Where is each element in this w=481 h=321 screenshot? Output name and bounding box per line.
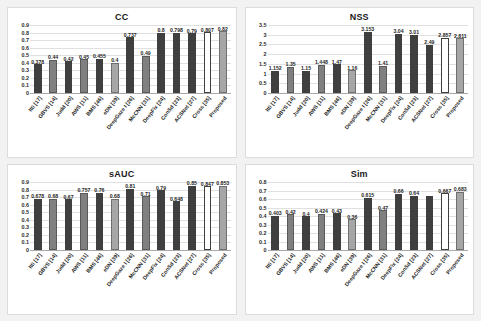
bar[interactable]: 0.67 bbox=[65, 199, 73, 250]
x-tick-slot: Proposed bbox=[453, 250, 468, 314]
plot-area: 00.511.522.533.51.1521.351.151.4481.471.… bbox=[246, 8, 474, 157]
bar[interactable]: 0.68 bbox=[49, 199, 57, 250]
bar[interactable]: 0.76 bbox=[96, 193, 104, 250]
x-tick-slot: Judd [20] bbox=[61, 250, 76, 314]
bar-slot: 0.8 bbox=[153, 25, 168, 93]
bar[interactable]: 0.64 bbox=[410, 196, 418, 250]
bar-value-label: 3.04 bbox=[394, 28, 404, 34]
bar[interactable]: 0.615 bbox=[364, 198, 372, 250]
bar[interactable]: 3.04 bbox=[395, 34, 403, 93]
bar[interactable]: 0.424 bbox=[318, 214, 326, 250]
bar-slot: 0.43 bbox=[329, 182, 344, 250]
bar[interactable]: 1.41 bbox=[379, 66, 387, 93]
bar[interactable]: 0.798 bbox=[173, 33, 181, 93]
bar[interactable]: 3.153 bbox=[364, 32, 372, 93]
bar-value-label: 0.4 bbox=[111, 57, 118, 63]
x-tick-slot: DeepFix [24] bbox=[153, 250, 168, 314]
bar[interactable]: 0.4 bbox=[111, 63, 119, 93]
y-tick-label: 0.8 bbox=[22, 30, 30, 36]
bar[interactable]: 2.811 bbox=[456, 38, 464, 93]
bar[interactable]: 0.667 bbox=[441, 193, 449, 250]
bar-value-label: 1.15 bbox=[301, 65, 311, 71]
x-tick-slot: Proposed bbox=[453, 93, 468, 157]
bar[interactable]: 0.648 bbox=[173, 201, 181, 250]
bar[interactable]: 1.448 bbox=[318, 65, 326, 93]
bar[interactable]: 2.857 bbox=[441, 38, 449, 94]
y-tick-label: 0.7 bbox=[22, 37, 30, 43]
bar-slot: 0.44 bbox=[45, 25, 60, 93]
bar[interactable]: 1.47 bbox=[333, 64, 341, 93]
y-tick-label: 0 bbox=[264, 247, 267, 253]
bar[interactable]: 1.35 bbox=[287, 67, 295, 93]
bar[interactable]: 0.378 bbox=[34, 64, 42, 93]
y-tick-label: 0.6 bbox=[22, 45, 30, 51]
bar[interactable]: 0.678 bbox=[34, 199, 42, 250]
bar[interactable]: 0.66 bbox=[395, 194, 403, 250]
bar[interactable] bbox=[426, 196, 434, 250]
bar[interactable]: 0.85 bbox=[188, 186, 196, 250]
bar[interactable]: 0.49 bbox=[142, 56, 150, 93]
bar[interactable]: 0.45 bbox=[80, 59, 88, 93]
plot-area: 00.10.20.30.40.50.60.70.80.90.6780.680.6… bbox=[8, 165, 236, 314]
bar[interactable]: 0.79 bbox=[157, 190, 165, 250]
bar[interactable]: 1.16 bbox=[348, 70, 356, 93]
x-tick-slot: ConSd [23] bbox=[406, 250, 421, 314]
bar[interactable]: 0.79 bbox=[188, 33, 196, 93]
y-tick-label: 0.5 bbox=[259, 205, 267, 211]
bar[interactable]: 0.68 bbox=[111, 199, 119, 250]
bar[interactable]: 3.01 bbox=[410, 35, 418, 93]
x-tick-slot: Judd [20] bbox=[61, 93, 76, 157]
bar[interactable]: 0.737 bbox=[126, 37, 134, 93]
x-tick-slot: DeepFix [24] bbox=[391, 250, 406, 314]
x-tick-slot: DeepGaze I [26] bbox=[123, 250, 138, 314]
bar[interactable]: 0.71 bbox=[142, 196, 150, 250]
bar[interactable]: 0.43 bbox=[333, 213, 341, 250]
bar[interactable]: 0.44 bbox=[49, 60, 57, 93]
bar-value-label: 0.4 bbox=[302, 211, 309, 217]
bar-value-label: 0.66 bbox=[394, 188, 404, 194]
bar[interactable]: 0.757 bbox=[80, 193, 88, 250]
bar-value-label: 0.737 bbox=[124, 32, 137, 38]
bar[interactable]: 0.455 bbox=[96, 59, 104, 93]
y-tick-label: 0.2 bbox=[22, 232, 30, 238]
bar-slot: 0.667 bbox=[437, 182, 452, 250]
bar-value-label: 3.153 bbox=[361, 26, 374, 32]
bar-value-label: 0.68 bbox=[48, 193, 58, 199]
y-tick-label: 0.3 bbox=[22, 67, 30, 73]
bar[interactable]: 0.42 bbox=[65, 61, 73, 93]
bar[interactable]: 0.36 bbox=[348, 219, 356, 250]
bar-value-label: 2.811 bbox=[454, 33, 467, 39]
y-tick-label: 0.7 bbox=[259, 188, 267, 194]
x-tick-slot: AWS [11] bbox=[314, 250, 329, 314]
bar-value-label: 0.424 bbox=[315, 208, 328, 214]
x-tick-slot: BMS [46] bbox=[329, 93, 344, 157]
bar-slot: 0.798 bbox=[169, 25, 184, 93]
y-tick-label: 0.5 bbox=[22, 209, 30, 215]
bar-slot: 0.403 bbox=[268, 182, 283, 250]
bar[interactable]: 0.4 bbox=[302, 216, 310, 250]
bar[interactable]: 1.152 bbox=[271, 71, 279, 93]
y-tick-label: 3 bbox=[264, 32, 267, 38]
bar[interactable]: 0.403 bbox=[271, 216, 279, 250]
y-tick-label: 3.5 bbox=[259, 22, 267, 28]
bar[interactable]: 0.8 bbox=[157, 33, 165, 93]
bar-series: 0.4030.420.40.4240.430.360.6150.470.660.… bbox=[268, 182, 469, 250]
bar-slot: 0.79 bbox=[153, 182, 168, 250]
bar[interactable]: 1.15 bbox=[302, 71, 310, 93]
x-tick-slot: Itti [17] bbox=[30, 93, 45, 157]
bar-value-label: 1.41 bbox=[378, 60, 388, 66]
y-tick-label: 0.2 bbox=[259, 230, 267, 236]
y-tick-label: 0.1 bbox=[22, 239, 30, 245]
bar-value-label: 0.378 bbox=[31, 59, 44, 65]
bar[interactable]: 2.49 bbox=[426, 45, 434, 93]
bar[interactable]: 0.853 bbox=[219, 186, 227, 250]
y-axis: 00.511.522.533.5 bbox=[248, 25, 268, 93]
bar-value-label: 2.857 bbox=[438, 32, 451, 38]
bar[interactable]: 0.47 bbox=[379, 210, 387, 250]
bar[interactable]: 0.807 bbox=[204, 32, 212, 93]
bar[interactable]: 0.683 bbox=[456, 192, 464, 250]
bar[interactable]: 0.847 bbox=[204, 186, 212, 250]
bar[interactable]: 0.81 bbox=[126, 189, 134, 250]
bar[interactable]: 0.42 bbox=[287, 214, 295, 250]
bar[interactable]: 0.82 bbox=[219, 31, 227, 93]
